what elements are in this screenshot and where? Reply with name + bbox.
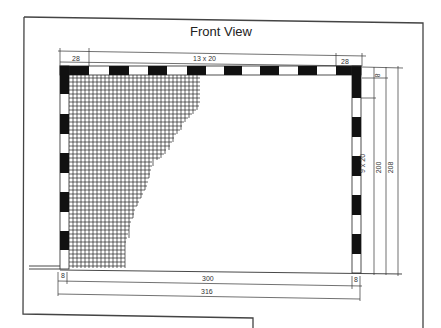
dim-inner-height: 200 (375, 162, 382, 174)
dim-crossbar-thickness: 8 (374, 74, 381, 78)
goal-left-post (60, 66, 69, 269)
dim-outer-width: 316 (201, 288, 213, 295)
goal-crossbar (60, 66, 361, 75)
dim-bottom-right-post: 8 (354, 276, 358, 283)
dim-inner-width: 300 (202, 275, 214, 282)
dim-top-segments: 13 x 20 (193, 55, 216, 62)
dim-side-segments: 9 x 20 (359, 154, 366, 173)
drawing-title: Front View (190, 25, 252, 38)
dim-top-left-corner: 28 (72, 55, 80, 62)
dim-top-right-corner: 28 (341, 58, 349, 65)
dim-bottom-left-post: 8 (61, 272, 65, 279)
goal-net-verticals (73, 75, 197, 268)
dim-outer-height: 208 (387, 162, 394, 174)
